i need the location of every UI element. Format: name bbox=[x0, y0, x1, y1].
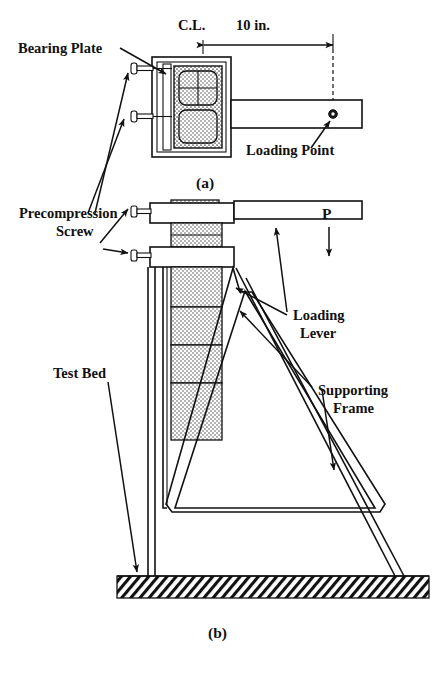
leader-screw-top-upper bbox=[95, 73, 128, 213]
screw-head-lower bbox=[131, 111, 137, 122]
loading-lever-label-line2: Lever bbox=[300, 325, 337, 341]
apparatus-diagram: C.L. 10 in. Bearing Plate Loading Point … bbox=[0, 0, 445, 677]
post-inner-bracket bbox=[163, 267, 167, 508]
upper-plate bbox=[150, 203, 234, 223]
screw-head-side-lower bbox=[131, 250, 137, 261]
leader-loading-lever-plate bbox=[236, 288, 287, 315]
precompression-screw-label-line1: Precompression bbox=[19, 205, 118, 221]
panel-a-caption: (a) bbox=[196, 174, 214, 192]
screw-shaft-lower bbox=[137, 114, 153, 119]
specimen-block-lower bbox=[179, 110, 217, 143]
leader-loading-lever-bar bbox=[276, 228, 287, 312]
loading-lever-label-line1: Loading bbox=[293, 307, 345, 323]
loading-point-center bbox=[331, 112, 334, 115]
bearing-plate-label: Bearing Plate bbox=[18, 40, 103, 56]
screw-head-upper bbox=[131, 63, 137, 74]
lever-bar-top bbox=[231, 100, 362, 128]
loading-lever-top-view bbox=[231, 100, 362, 128]
loading-point-label: Loading Point bbox=[246, 142, 334, 158]
lower-plate bbox=[150, 247, 234, 267]
column-segment-1 bbox=[171, 267, 222, 307]
lever-bar-side bbox=[234, 201, 362, 219]
column-segment-4 bbox=[171, 383, 222, 440]
dimension-label: 10 in. bbox=[236, 17, 270, 33]
leader-screw-side-lower bbox=[103, 249, 128, 253]
supporting-frame-label-line2: Frame bbox=[333, 400, 375, 416]
specimen-column bbox=[171, 267, 222, 440]
leader-screw-top-lower bbox=[88, 119, 124, 213]
precompression-screws-side-view bbox=[131, 206, 151, 261]
screw-head-side-upper bbox=[131, 206, 137, 217]
leader-test-bed bbox=[108, 382, 137, 572]
centerline-label: C.L. bbox=[178, 17, 205, 33]
test-bed-ground bbox=[117, 576, 429, 598]
load-label-P: P bbox=[322, 205, 332, 222]
test-bed-label: Test Bed bbox=[53, 365, 106, 381]
panel-b-caption: (b) bbox=[208, 624, 227, 642]
column-segment-3 bbox=[171, 345, 222, 383]
column-segment-2 bbox=[171, 307, 222, 345]
screw-shaft-upper bbox=[137, 66, 153, 71]
vertical-post bbox=[148, 267, 167, 576]
screw-shaft-side-lower bbox=[137, 253, 151, 258]
screw-shaft-side-upper bbox=[137, 209, 151, 214]
precompression-screw-label-line2: Screw bbox=[56, 223, 94, 239]
supporting-frame-label-line1: Supporting bbox=[318, 382, 389, 398]
ground-hatch-band bbox=[117, 576, 429, 598]
figure-root: C.L. 10 in. Bearing Plate Loading Point … bbox=[0, 0, 445, 677]
bearing-plate-left bbox=[163, 64, 171, 150]
